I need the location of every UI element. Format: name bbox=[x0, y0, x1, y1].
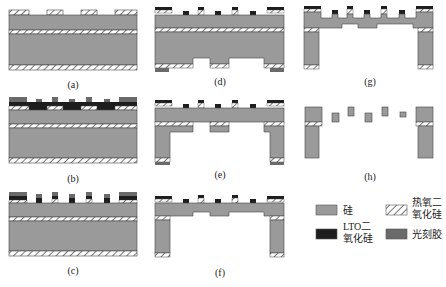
process-flow-diagram: (a) (b) bbox=[0, 0, 446, 287]
panel-label-h: (h) bbox=[364, 171, 376, 183]
photoresist-swatch bbox=[386, 229, 407, 239]
panel-label-b: (b) bbox=[67, 173, 79, 185]
legend-thermal-oxide-line1: 热氧二 bbox=[412, 196, 442, 208]
legend-photoresist-label: 光刻胶 bbox=[412, 228, 442, 240]
panel-f: (f) bbox=[155, 195, 284, 279]
legend-lto-line1: LTO二 bbox=[343, 221, 371, 232]
panel-label-a: (a) bbox=[67, 79, 78, 91]
legend-lto-line2: 氧化硅 bbox=[343, 232, 373, 244]
panel-a: (a) bbox=[9, 10, 137, 91]
legend-item-photoresist: 光刻胶 bbox=[386, 228, 442, 240]
panel-label-e: (e) bbox=[214, 169, 225, 181]
panel-label-f: (f) bbox=[215, 267, 225, 279]
panel-g: (g) bbox=[304, 6, 433, 88]
panel-c: (c) bbox=[9, 192, 137, 277]
silicon-swatch bbox=[316, 205, 337, 215]
panel-d: (d) bbox=[155, 7, 284, 88]
legend-item-silicon: 硅 bbox=[316, 204, 353, 216]
legend-item-lto-oxide: LTO二 氧化硅 bbox=[316, 221, 373, 244]
panel-label-d: (d) bbox=[214, 76, 226, 88]
legend-item-thermal-oxide: 热氧二 氧化硅 bbox=[386, 196, 442, 220]
panel-label-c: (c) bbox=[67, 265, 78, 277]
legend-silicon-label: 硅 bbox=[343, 204, 353, 216]
legend: 硅 热氧二 氧化硅 LTO二 氧化硅 光刻胶 bbox=[316, 196, 442, 244]
legend-thermal-oxide-line2: 氧化硅 bbox=[412, 208, 442, 220]
panel-e: (e) bbox=[155, 100, 284, 181]
panel-b: (b) bbox=[9, 97, 137, 185]
lto-oxide-swatch bbox=[316, 229, 337, 239]
panel-label-g: (g) bbox=[364, 76, 376, 88]
panel-h: (h) bbox=[305, 107, 433, 183]
thermal-oxide-swatch bbox=[386, 205, 407, 215]
